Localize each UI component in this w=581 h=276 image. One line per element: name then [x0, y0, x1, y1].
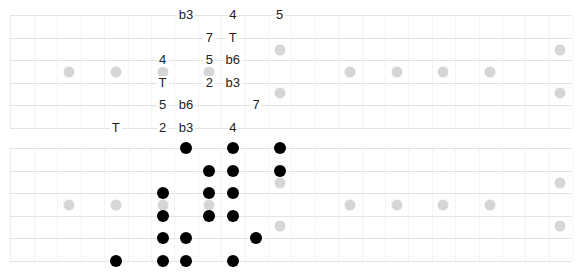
string-line-2 [10, 171, 571, 172]
string-line-5 [10, 238, 571, 239]
string-line-2 [10, 38, 571, 39]
interval-label: T [227, 31, 239, 45]
note-dot-icon [227, 165, 239, 177]
fret-line [432, 15, 433, 128]
fret-line [455, 148, 456, 261]
fret-marker-icon [110, 199, 121, 210]
interval-label: b6 [224, 53, 242, 67]
fret-line [81, 15, 82, 128]
nut-line [10, 148, 11, 261]
fret-double-marker-icon [555, 177, 566, 188]
interval-label: b3 [177, 8, 195, 22]
fret-line [338, 15, 339, 128]
interval-label: 4 [157, 53, 168, 67]
fret-line [57, 148, 58, 261]
interval-label: 5 [274, 8, 285, 22]
fret-line [315, 15, 316, 128]
fret-line [104, 148, 105, 261]
fret-line [57, 15, 58, 128]
fret-line [221, 15, 222, 128]
fret-line [455, 15, 456, 128]
note-dot-icon [180, 255, 192, 267]
interval-label: b3 [177, 121, 195, 135]
fret-marker-icon [204, 199, 215, 210]
fret-line [479, 148, 480, 261]
fret-line [408, 148, 409, 261]
fret-line [291, 15, 292, 128]
interval-label: 4 [227, 8, 238, 22]
note-dot-icon [157, 187, 169, 199]
note-dot-icon [274, 142, 286, 154]
note-dot-icon [203, 187, 215, 199]
fretboard-note-dots [0, 138, 581, 276]
fret-double-marker-icon [274, 177, 285, 188]
fret-line [81, 148, 82, 261]
fret-line [291, 148, 292, 261]
fret-line [572, 15, 573, 128]
interval-label: 5 [157, 98, 168, 112]
fret-line [338, 148, 339, 261]
string-line-6 [10, 261, 571, 262]
interval-label: 7 [204, 31, 215, 45]
fret-line [128, 148, 129, 261]
note-dot-icon [227, 187, 239, 199]
interval-label: 4 [227, 121, 238, 135]
fret-marker-icon [391, 66, 402, 77]
fret-line [268, 15, 269, 128]
fret-line [572, 148, 573, 261]
fret-marker-icon [110, 66, 121, 77]
fret-line [151, 148, 152, 261]
fret-line [385, 15, 386, 128]
fret-line [362, 15, 363, 128]
fret-double-marker-icon [274, 221, 285, 232]
fret-marker-icon [344, 199, 355, 210]
interval-label: T [110, 121, 122, 135]
fret-line [502, 148, 503, 261]
fret-line [104, 15, 105, 128]
note-dot-icon [157, 210, 169, 222]
string-line-1 [10, 148, 571, 149]
note-dot-icon [227, 210, 239, 222]
fret-marker-icon [344, 66, 355, 77]
interval-label: 2 [157, 121, 168, 135]
fret-line [408, 15, 409, 128]
note-dot-icon [180, 232, 192, 244]
fret-line [525, 148, 526, 261]
string-line-4 [10, 83, 571, 84]
fret-double-marker-icon [274, 88, 285, 99]
fretboard-interval-labels: b3457T45b6T2b35b67T2b34 [0, 0, 581, 138]
note-dot-icon [110, 255, 122, 267]
string-line-3 [10, 193, 571, 194]
fret-line [362, 148, 363, 261]
fret-line [221, 148, 222, 261]
fret-line [34, 15, 35, 128]
fret-line [198, 148, 199, 261]
fret-line [174, 148, 175, 261]
fret-marker-icon [157, 199, 168, 210]
string-line-1 [10, 15, 571, 16]
nut-line [10, 15, 11, 128]
fret-double-marker-icon [555, 88, 566, 99]
note-dot-icon [227, 142, 239, 154]
string-line-5 [10, 105, 571, 106]
fret-line [315, 148, 316, 261]
interval-label: b3 [224, 76, 242, 90]
fret-line [525, 15, 526, 128]
fret-line [245, 15, 246, 128]
fret-line [245, 148, 246, 261]
interval-label: 7 [251, 98, 262, 112]
interval-label: b6 [177, 98, 195, 112]
fret-line [502, 15, 503, 128]
fret-marker-icon [64, 199, 75, 210]
note-dot-icon [203, 165, 215, 177]
note-dot-icon [274, 165, 286, 177]
fret-line [549, 15, 550, 128]
fret-marker-icon [391, 199, 402, 210]
string-line-3 [10, 60, 571, 61]
note-dot-icon [157, 255, 169, 267]
fret-line [174, 15, 175, 128]
interval-label: T [157, 76, 169, 90]
fret-marker-icon [64, 66, 75, 77]
note-dot-icon [157, 232, 169, 244]
fret-marker-icon [485, 199, 496, 210]
